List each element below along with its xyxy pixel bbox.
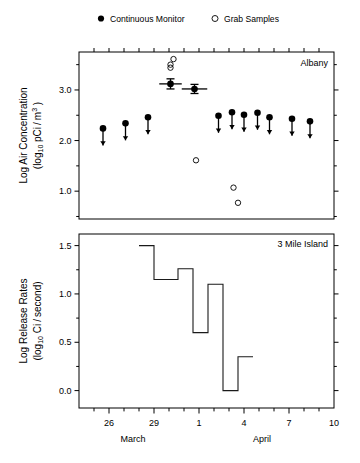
y-axis-title-tmi-line2: (log10 Ci / second) <box>32 281 45 360</box>
data-point-continuous-monitor <box>307 118 314 125</box>
legend-marker-filled-circle <box>98 15 104 21</box>
y-tick-label-albany: 2.0 <box>59 136 72 146</box>
x-axis-ticks-albany-top <box>94 48 319 52</box>
figure-container: Continuous MonitorGrab Samples3.02.01.01… <box>0 0 360 463</box>
data-point-continuous-monitor <box>266 114 273 121</box>
data-point-grab-sample <box>171 56 176 61</box>
y-axis-title-albany-group: Log Air Concentration(log10 pCi / m3 ) <box>18 87 44 183</box>
data-point-grab-sample <box>235 200 240 205</box>
x-tick-label: 1 <box>196 418 201 428</box>
y-tick-label-tmi: 1.0 <box>59 289 72 299</box>
x-tick-label: 7 <box>286 418 291 428</box>
upper-limit-arrow-head <box>100 141 105 145</box>
upper-limit-arrow-head <box>145 130 150 134</box>
upper-limit-arrow-head <box>123 136 128 140</box>
data-point-continuous-monitor <box>167 81 174 88</box>
upper-limit-arrow-head <box>241 128 246 132</box>
panel-label-three-mile-island: 3 Mile Island <box>277 239 328 249</box>
data-point-continuous-monitor <box>191 86 198 93</box>
y-tick-label-albany: 3.0 <box>59 85 72 95</box>
upper-limit-arrow-head <box>216 129 221 133</box>
data-point-continuous-monitor <box>145 114 152 121</box>
legend-marker-open-circle <box>212 16 218 22</box>
upper-limit-arrow-head <box>307 134 312 138</box>
series-continuous-monitor <box>100 79 314 146</box>
two-panel-chart: Continuous MonitorGrab Samples3.02.01.01… <box>0 0 360 463</box>
x-tick-label: 10 <box>329 418 339 428</box>
data-point-grab-sample <box>193 158 198 163</box>
y-tick-label-tmi: 0.5 <box>59 337 72 347</box>
data-point-grab-sample <box>231 185 236 190</box>
y-axis-title-tmi-group: Log Release Rates(log10 Ci / second) <box>18 278 44 363</box>
y-tick-label-albany: 1.0 <box>59 186 72 196</box>
y-tick-label-tmi: 1.5 <box>59 241 72 251</box>
upper-limit-arrow-head <box>229 125 234 129</box>
legend-label-continuous-monitor: Continuous Monitor <box>110 14 185 24</box>
panel-label-albany: Albany <box>300 58 328 68</box>
data-point-continuous-monitor <box>254 109 261 116</box>
panel-tmi-axes-frame <box>79 234 334 408</box>
data-point-continuous-monitor <box>241 111 248 118</box>
legend-label-grab-samples: Grab Samples <box>224 14 279 24</box>
y-axis-title-albany-line2: (log10 pCi / m3 ) <box>31 102 45 169</box>
data-point-continuous-monitor <box>122 120 129 127</box>
upper-limit-arrow-head <box>289 132 294 136</box>
data-point-continuous-monitor <box>100 125 107 132</box>
x-tick-label: 26 <box>104 418 114 428</box>
x-axis-month-label-april: April <box>253 434 271 444</box>
x-tick-label: 4 <box>241 418 246 428</box>
y-axis-title-albany-line1: Log Air Concentration <box>18 87 29 183</box>
x-tick-label: 29 <box>149 418 159 428</box>
y-axis-ticks-albany <box>75 65 339 217</box>
x-axis-ticks-tmi <box>94 408 319 414</box>
upper-limit-arrow-head <box>267 130 272 134</box>
panel-albany-axes-frame <box>79 52 334 219</box>
y-axis-ticks-tmi <box>75 246 339 391</box>
data-point-continuous-monitor <box>289 116 296 123</box>
x-axis-month-label-march: March <box>120 434 145 444</box>
y-tick-label-tmi: 0.0 <box>59 386 72 396</box>
y-axis-title-tmi-line1: Log Release Rates <box>18 278 29 363</box>
step-line-release-rates <box>139 246 253 391</box>
data-point-continuous-monitor <box>229 109 236 116</box>
data-point-continuous-monitor <box>215 112 222 119</box>
series-grab-samples <box>168 56 241 205</box>
upper-limit-arrow-head <box>255 126 260 130</box>
